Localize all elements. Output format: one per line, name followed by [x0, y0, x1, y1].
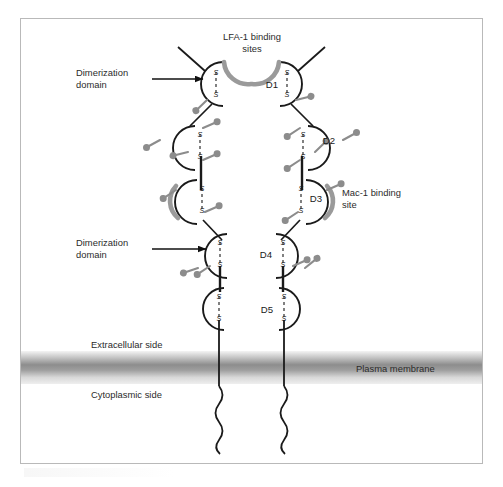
dimerization-bottom-line2: domain [76, 249, 107, 260]
domain-label-d1: D1 [266, 79, 278, 90]
annotation-mac1: Mac-1 binding site [342, 187, 401, 210]
domain-labels: D1 D2 D3 D4 D5 [260, 79, 335, 315]
ss-label: S [281, 238, 286, 247]
annotation-dimerization-bottom: Dimerization domain [76, 237, 206, 260]
ss-label: S [200, 206, 205, 215]
domain-label-d3: D3 [310, 193, 322, 204]
ss-label: S [301, 130, 306, 139]
domain-d2-left [173, 126, 195, 170]
ss-label: S [214, 90, 219, 99]
plasma-membrane-label: Plasma membrane [356, 363, 435, 374]
dimerization-top-line1: Dimerization [76, 67, 128, 78]
glycan-group-left [143, 100, 223, 279]
ss-label: S [281, 260, 286, 269]
ss-label: S [285, 90, 290, 99]
icam1-dimer-diagram: S S S S S S S S S S S S S S S S S S S S … [0, 0, 503, 487]
ss-label: S [282, 314, 287, 323]
dimerization-bottom-line1: Dimerization [76, 237, 128, 248]
chain-left [170, 47, 251, 454]
ss-label: S [299, 206, 304, 215]
n-terminal-arm-right [298, 47, 325, 71]
ss-label: S [214, 68, 219, 77]
domain-d4-left [205, 234, 227, 278]
ss-label: S [301, 152, 306, 161]
lfa1-label-line1: LFA-1 binding [223, 31, 281, 42]
disulfide-labels: S S S S S S S S S S S S S S S S S S S S [198, 68, 306, 323]
ss-label: S [218, 238, 223, 247]
ss-label: S [218, 260, 223, 269]
ss-label: S [198, 130, 203, 139]
ss-label: S [217, 292, 222, 301]
mac1-label-line1: Mac-1 binding [342, 187, 401, 198]
domain-d1-left [201, 62, 251, 106]
ss-label: S [217, 314, 222, 323]
domain-d3-left [170, 180, 197, 224]
cytoplasmic-side-label: Cytoplasmic side [91, 389, 162, 400]
annotation-lfa1: LFA-1 binding sites [223, 31, 281, 54]
annotation-dimerization-top: Dimerization domain [76, 67, 203, 90]
ss-label: S [285, 68, 290, 77]
domain-d4-right [276, 234, 298, 278]
lfa1-label-line2: sites [242, 43, 262, 54]
domain-label-d5: D5 [261, 304, 273, 315]
ss-label: S [299, 184, 304, 193]
extracellular-side-label: Extracellular side [91, 339, 162, 350]
ss-label: S [282, 292, 287, 301]
ss-label: S [198, 152, 203, 161]
cytoplasmic-tail-left [216, 386, 223, 454]
cytoplasmic-tail-right [281, 386, 288, 454]
dimerization-top-line2: domain [76, 79, 107, 90]
lfa1-binding-arc-left [224, 62, 251, 84]
mac1-label-line2: site [342, 199, 357, 210]
mac1-binding-arc-right [325, 186, 333, 218]
domain-label-d4: D4 [260, 249, 273, 260]
domain-label-d2: D2 [323, 135, 335, 146]
ss-label: S [200, 184, 205, 193]
n-terminal-arm-left [178, 47, 205, 71]
